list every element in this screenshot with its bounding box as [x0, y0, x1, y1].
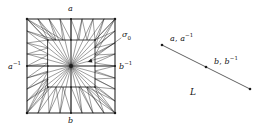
edge-label-a-inv-exp: −1	[13, 60, 21, 66]
edge-label-a-inverse-left: a−1	[8, 61, 21, 71]
cell-label-sigma-zero: σ0	[122, 31, 131, 41]
segment-point-a	[161, 44, 164, 47]
edge-label-b-inverse-right: b−1	[119, 61, 132, 71]
edge-label-b-bottom-text: b	[68, 116, 73, 125]
segment-label-b-b-inverse: b, b−1	[214, 56, 238, 66]
segment-L-group	[161, 44, 252, 91]
seg-a2-exp: −1	[185, 32, 193, 38]
edge-label-b-bottom: b	[68, 117, 73, 125]
seg-b2-exp: −1	[230, 55, 238, 61]
sigma-subscript: 0	[128, 35, 132, 41]
segment-point-b	[205, 66, 208, 69]
triangulated-square-group	[26, 18, 121, 115]
seg-a-separator: ,	[175, 34, 178, 43]
edge-label-a-top: a	[68, 5, 73, 13]
segment-label-a-a-inverse: a, a−1	[170, 33, 193, 43]
seg-b-separator: ,	[219, 57, 222, 66]
segment-label-L-text: L	[190, 87, 196, 97]
edge-label-a-top-text: a	[68, 4, 73, 13]
segment-point-end	[249, 88, 252, 91]
segment-label-L: L	[190, 88, 196, 97]
edge-label-b-inv-exp: −1	[124, 60, 132, 66]
